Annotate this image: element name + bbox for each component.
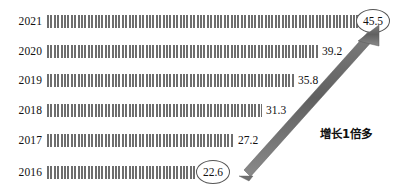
bar-2017 [47,134,234,147]
value-label-highlighted: 22.6 [196,160,230,184]
value-label: 39.2 [322,41,342,61]
table-row: 202039.2 [0,41,400,61]
value-label: 31.3 [266,100,286,120]
year-axis-label: 2016 [6,162,42,182]
year-axis-label: 2021 [6,11,42,31]
bar-2021 [47,15,370,28]
value-label: 35.8 [298,70,318,90]
year-axis-label: 2019 [6,70,42,90]
value-label: 27.2 [238,130,258,150]
table-row: 201935.8 [0,70,400,90]
table-row: 201831.3 [0,100,400,120]
table-row: 202145.5 [0,11,400,31]
bar-2018 [47,104,262,117]
table-row: 201622.6 [0,162,400,182]
year-axis-label: 2017 [6,130,42,150]
bar-2020 [47,45,318,58]
value-label-highlighted: 45.5 [356,9,390,33]
growth-annotation-text: 增长1倍多 [320,125,372,141]
year-axis-label: 2020 [6,41,42,61]
growth-bar-chart: 202145.5202039.2201935.8201831.3201727.2… [0,0,400,194]
bar-2019 [47,74,294,87]
bar-2016 [47,166,197,179]
year-axis-label: 2018 [6,100,42,120]
